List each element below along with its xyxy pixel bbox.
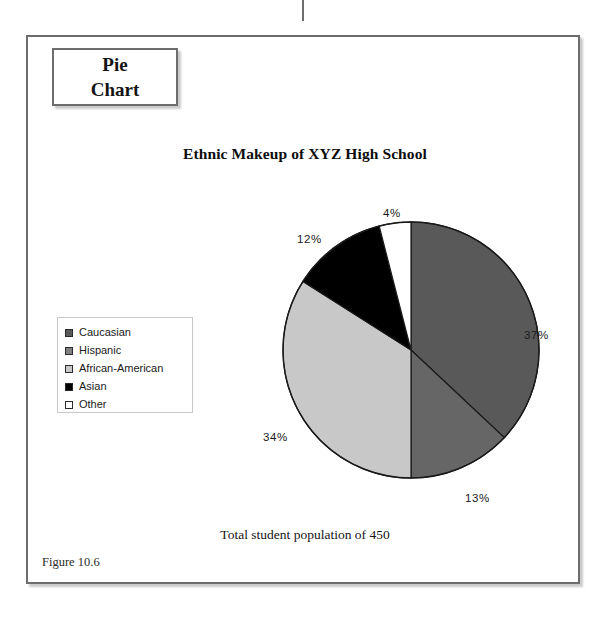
chart-caption: Total student population of 450 xyxy=(28,527,582,543)
legend-swatch-caucasian xyxy=(65,329,73,337)
legend-item-african-american: African-American xyxy=(65,360,192,377)
callout-line-1: Pie xyxy=(54,52,176,77)
pie-label-12: 12% xyxy=(297,233,322,245)
legend-item-asian: Asian xyxy=(65,378,192,395)
chart-legend: Caucasian Hispanic African-American Asia… xyxy=(57,317,193,413)
pie-slice-hispanic xyxy=(411,350,504,478)
legend-label-other: Other xyxy=(79,399,107,410)
pie-label-13: 13% xyxy=(465,492,490,504)
pie-label-34: 34% xyxy=(263,431,288,443)
legend-swatch-hispanic xyxy=(65,347,73,355)
chart-title: Ethnic Makeup of XYZ High School xyxy=(28,145,582,163)
legend-item-hispanic: Hispanic xyxy=(65,342,192,359)
legend-item-other: Other xyxy=(65,396,192,413)
pie-chart-svg xyxy=(278,217,544,483)
legend-label-hispanic: Hispanic xyxy=(79,345,121,356)
pie-label-37: 37% xyxy=(524,329,549,341)
legend-swatch-african-american xyxy=(65,365,73,373)
pie-outline xyxy=(283,222,539,478)
pie-slice-other xyxy=(379,222,411,350)
pie-slice-caucasian xyxy=(411,222,539,438)
legend-swatch-asian xyxy=(65,383,73,391)
legend-label-caucasian: Caucasian xyxy=(79,327,131,338)
legend-item-caucasian: Caucasian xyxy=(65,324,192,341)
pie-label-4: 4% xyxy=(383,207,401,219)
page-top-tick-mark xyxy=(302,0,304,21)
callout-line-2: Chart xyxy=(54,77,176,102)
legend-label-asian: Asian xyxy=(79,381,107,392)
pie-chart-callout: Pie Chart xyxy=(52,48,178,106)
legend-swatch-other xyxy=(65,401,73,409)
legend-label-african-american: African-American xyxy=(79,363,163,374)
figure-frame: Pie Chart Ethnic Makeup of XYZ High Scho… xyxy=(26,35,580,584)
pie-chart-plot-area: 37% 13% 34% 12% 4% xyxy=(28,37,582,586)
pie-slice-asian xyxy=(303,226,411,350)
pie-slice-african-american xyxy=(283,281,411,478)
figure-number: Figure 10.6 xyxy=(42,555,100,570)
